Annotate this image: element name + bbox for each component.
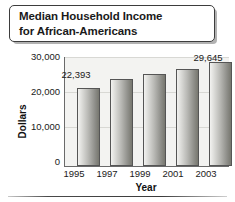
bar-1995[interactable] <box>77 88 100 166</box>
y-tick-30000: 30,000 <box>31 52 60 62</box>
x-tick-2003: 2003 <box>184 168 228 179</box>
y-axis-tick-labels: 30,000 20,000 10,000 0 <box>0 44 60 194</box>
x-axis-label: Year <box>64 182 228 193</box>
data-label-1995: 22,393 <box>52 69 100 80</box>
chart-title-line-2: for African-Americans <box>19 24 214 39</box>
bar-1999[interactable] <box>143 74 166 166</box>
bar-chart: Dollars 30,000 20,000 10,000 0 22,393 29… <box>0 44 235 194</box>
y-tick-10000: 10,000 <box>31 122 60 132</box>
y-tick-20000: 20,000 <box>31 87 60 97</box>
bar-2001[interactable] <box>176 69 199 166</box>
data-label-2003: 29,645 <box>184 52 232 63</box>
bar-1997[interactable] <box>110 79 133 166</box>
y-tick-0: 0 <box>55 157 60 167</box>
chart-title-panel: Median Household Income for African-Amer… <box>9 5 215 42</box>
bar-2003[interactable] <box>209 62 232 166</box>
bottom-divider <box>8 196 227 197</box>
chart-title-line-1: Median Household Income <box>19 9 214 24</box>
